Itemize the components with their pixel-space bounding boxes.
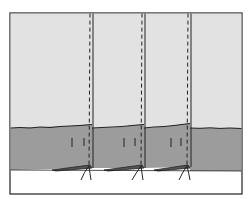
upper-panel bbox=[11, 14, 242, 129]
lower-band bbox=[11, 124, 92, 170]
band-edge bbox=[190, 128, 241, 129]
panel-illustration bbox=[0, 0, 248, 199]
lower-band bbox=[92, 124, 144, 168]
lower-band bbox=[144, 123, 190, 168]
lower-band bbox=[190, 128, 241, 171]
